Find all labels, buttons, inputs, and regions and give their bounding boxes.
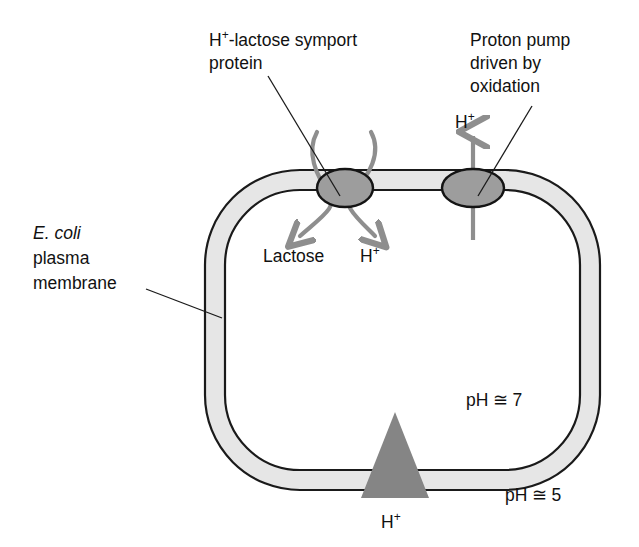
- ph-inside-symbol: ≅: [493, 390, 508, 410]
- cell-diagram: H+-lactose symport protein Proton pump d…: [0, 0, 639, 547]
- ph-outside-symbol: ≅: [532, 485, 547, 505]
- ph-inside-label: pH≅7: [466, 390, 522, 410]
- ph-inside-value: 7: [512, 390, 522, 410]
- ph-outside-value: 5: [551, 485, 561, 505]
- symport-protein-label: H+-lactose symport protein: [209, 28, 357, 73]
- svg-text:H+-lactose symport: H+-lactose symport: [209, 28, 357, 50]
- proton-pump-label: Proton pump driven by oxidation: [470, 30, 570, 96]
- symport-protein-ellipse[interactable]: [317, 169, 373, 207]
- pump-label-line3: oxidation: [470, 76, 540, 96]
- inner-proton-h: H: [360, 246, 373, 266]
- pump-proton-sup: +: [468, 110, 475, 124]
- membrane-label-species: E. coli: [33, 223, 82, 243]
- inner-proton-sup: +: [373, 244, 380, 258]
- proton-pump-ellipse[interactable]: [442, 169, 504, 207]
- ph-inside-prefix: pH: [466, 390, 488, 410]
- gradient-proton-sup: +: [394, 510, 401, 524]
- proton-gradient-triangle: [361, 412, 429, 498]
- pump-label-line2: driven by: [470, 53, 541, 73]
- lactose-label: Lactose: [263, 246, 324, 266]
- pump-label-line1: Proton pump: [470, 30, 570, 50]
- pump-proton-h: H: [455, 112, 468, 132]
- membrane-label: E. coli plasma membrane: [33, 223, 117, 293]
- symport-label-sup: +: [222, 28, 229, 42]
- ph-outside-label: pH≅5: [505, 485, 561, 505]
- ph-outside-prefix: pH: [505, 485, 527, 505]
- gradient-proton-h: H: [381, 512, 394, 532]
- symport-label-h: H: [209, 30, 222, 50]
- gradient-proton-label: H+: [381, 510, 401, 532]
- diagram-root: H+-lactose symport protein Proton pump d…: [0, 0, 639, 547]
- symport-label-line2: protein: [209, 53, 263, 73]
- membrane-label-line3: membrane: [33, 273, 117, 293]
- inner-proton-label: H+: [360, 244, 380, 266]
- membrane-label-line2: plasma: [33, 248, 90, 268]
- pump-proton-label: H+: [455, 110, 475, 132]
- symport-label-rest: -lactose symport: [229, 30, 358, 50]
